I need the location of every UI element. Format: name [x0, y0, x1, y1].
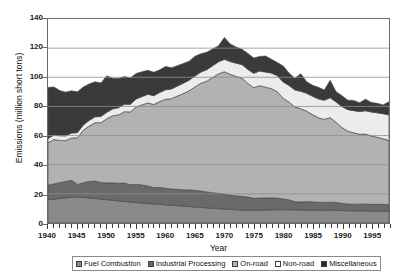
x-tick-mark [59, 224, 60, 228]
x-tick-label: 1980 [275, 231, 293, 241]
legend-item[interactable]: Industrial Processing [148, 259, 226, 268]
x-tick-mark [343, 224, 344, 229]
x-tick-label: 1970 [216, 231, 234, 241]
legend-label: Non-road [283, 259, 314, 268]
x-tick-mark [260, 224, 261, 228]
x-tick-mark [47, 224, 48, 229]
legend-item[interactable]: On-road [232, 259, 268, 268]
x-tick-mark [94, 224, 95, 228]
x-tick-mark [106, 224, 107, 229]
chart-legend: Fuel CombustionIndustrial ProcessingOn-r… [72, 256, 381, 271]
x-tick-mark [189, 224, 190, 228]
x-tick-label: 1965 [186, 231, 204, 241]
x-tick-mark [242, 224, 243, 228]
x-tick-mark [219, 224, 220, 228]
stacked-area-chart: Emissions (million short tons) 020406080… [0, 0, 406, 280]
x-tick-mark [177, 224, 178, 228]
x-tick-label: 1945 [68, 231, 86, 241]
x-tick-mark [77, 224, 78, 229]
x-tick-mark [284, 224, 285, 229]
legend-item[interactable]: Fuel Combustion [76, 259, 141, 268]
plot-clip [48, 19, 389, 223]
x-tick-mark [171, 224, 172, 228]
x-tick-mark [254, 224, 255, 229]
legend-swatch-icon [76, 261, 82, 267]
x-tick-mark [390, 224, 391, 228]
x-tick-mark [136, 224, 137, 229]
x-tick-mark [118, 224, 119, 228]
x-tick-mark [355, 224, 356, 228]
x-tick-mark [266, 224, 267, 228]
plot-area [47, 18, 390, 224]
x-tick-mark [65, 224, 66, 228]
x-tick-mark [278, 224, 279, 228]
x-tick-mark [337, 224, 338, 228]
legend-swatch-icon [148, 261, 154, 267]
x-tick-label: 1940 [38, 231, 56, 241]
x-tick-mark [301, 224, 302, 228]
x-tick-mark [272, 224, 273, 228]
legend-label: On-road [240, 259, 268, 268]
x-tick-mark [224, 224, 225, 229]
x-tick-mark [201, 224, 202, 228]
x-tick-mark [349, 224, 350, 228]
x-tick-mark [289, 224, 290, 228]
x-tick-mark [313, 224, 314, 229]
x-tick-mark [213, 224, 214, 228]
x-tick-mark [159, 224, 160, 228]
x-tick-mark [331, 224, 332, 228]
x-tick-label: 1950 [97, 231, 115, 241]
x-tick-mark [378, 224, 379, 228]
legend-swatch-icon [275, 261, 281, 267]
y-axis-tick-labels: 020406080100120140 [0, 18, 43, 224]
x-tick-mark [153, 224, 154, 228]
series-layers [48, 19, 389, 223]
x-tick-label: 1955 [127, 231, 145, 241]
x-tick-mark [360, 224, 361, 228]
x-tick-mark [82, 224, 83, 228]
legend-label: Fuel Combustion [84, 259, 141, 268]
x-tick-mark [53, 224, 54, 228]
x-tick-mark [248, 224, 249, 228]
x-tick-mark [236, 224, 237, 228]
x-tick-mark [88, 224, 89, 228]
x-tick-mark [325, 224, 326, 228]
x-tick-mark [71, 224, 72, 228]
x-tick-label: 1975 [245, 231, 263, 241]
x-tick-mark [307, 224, 308, 228]
x-tick-mark [100, 224, 101, 228]
x-tick-label: 1960 [156, 231, 174, 241]
legend-label: Miscellaneous [329, 259, 377, 268]
x-tick-mark [130, 224, 131, 228]
x-tick-label: 1995 [363, 231, 381, 241]
x-tick-mark [319, 224, 320, 228]
x-tick-mark [142, 224, 143, 228]
x-tick-mark [366, 224, 367, 228]
x-tick-mark [195, 224, 196, 229]
x-axis-title: Year [47, 243, 390, 253]
x-tick-mark [207, 224, 208, 228]
x-tick-mark [183, 224, 184, 228]
x-tick-mark [148, 224, 149, 228]
legend-swatch-icon [321, 261, 327, 267]
x-tick-mark [112, 224, 113, 228]
x-tick-mark [230, 224, 231, 228]
x-tick-mark [384, 224, 385, 228]
x-tick-mark [372, 224, 373, 229]
x-tick-mark [124, 224, 125, 228]
legend-label: Industrial Processing [156, 259, 226, 268]
legend-swatch-icon [232, 261, 238, 267]
x-axis-tick-marks [47, 224, 390, 230]
legend-item[interactable]: Non-road [275, 259, 314, 268]
x-tick-mark [295, 224, 296, 228]
x-axis-tick-labels: 1940194519501955196019651970197519801985… [47, 231, 390, 243]
x-tick-label: 1985 [304, 231, 322, 241]
x-tick-mark [165, 224, 166, 229]
x-tick-label: 1990 [334, 231, 352, 241]
legend-item[interactable]: Miscellaneous [321, 259, 377, 268]
